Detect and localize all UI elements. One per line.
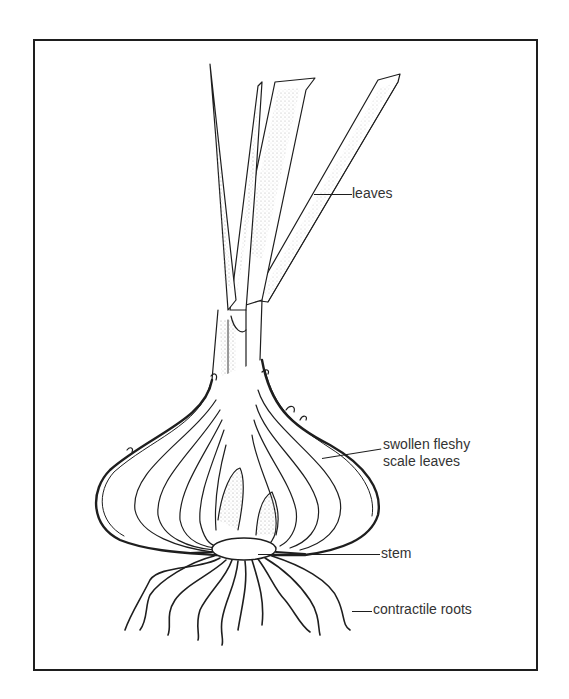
onion-bulb-illustration xyxy=(0,0,569,699)
label-stem: stem xyxy=(381,545,411,562)
label-leaves: leaves xyxy=(352,185,392,202)
label-scale-leaves-line2: scale leaves xyxy=(383,453,460,470)
leaves-leader-line xyxy=(314,194,352,195)
stem-leader-line xyxy=(258,554,380,555)
stem-plate xyxy=(212,538,276,560)
bulb-group xyxy=(96,360,379,555)
roots-group xyxy=(125,556,350,645)
roots-leader-line xyxy=(352,611,372,612)
label-scale-leaves-line1: swollen fleshy xyxy=(383,436,470,453)
label-contractile-roots: contractile roots xyxy=(373,601,472,618)
